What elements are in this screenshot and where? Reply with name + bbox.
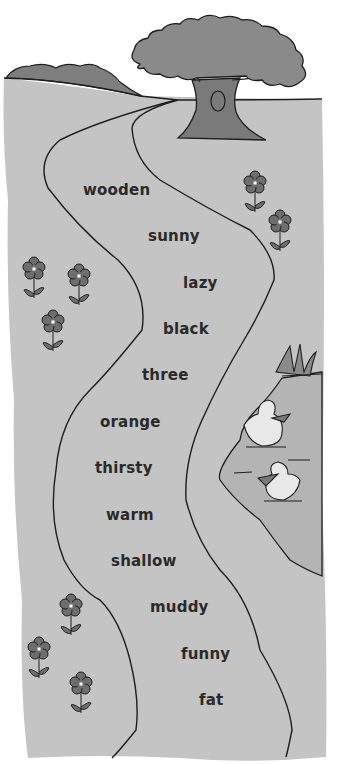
path-word: orange: [100, 413, 161, 431]
path-word: muddy: [150, 598, 209, 616]
flower-icon: [244, 171, 266, 212]
word-path-worksheet: wooden sunny lazy black three orange thi…: [0, 0, 341, 764]
path-word: wooden: [83, 181, 150, 199]
flower-icon: [68, 264, 90, 305]
path-word: sunny: [148, 227, 200, 245]
path-word: shallow: [111, 552, 177, 570]
flower-icon: [269, 210, 291, 251]
path-word: lazy: [183, 274, 218, 292]
path-word: thirsty: [95, 459, 153, 477]
path-word: three: [142, 366, 189, 384]
path-word: fat: [199, 691, 223, 709]
path-word: funny: [181, 645, 230, 663]
flower-icon: [70, 672, 92, 713]
flower-icon: [60, 594, 82, 635]
flower-icon: [42, 310, 64, 351]
flower-icon: [23, 257, 45, 298]
path-word: warm: [106, 506, 154, 524]
flower-icon: [28, 637, 50, 678]
path-word: black: [163, 320, 209, 338]
